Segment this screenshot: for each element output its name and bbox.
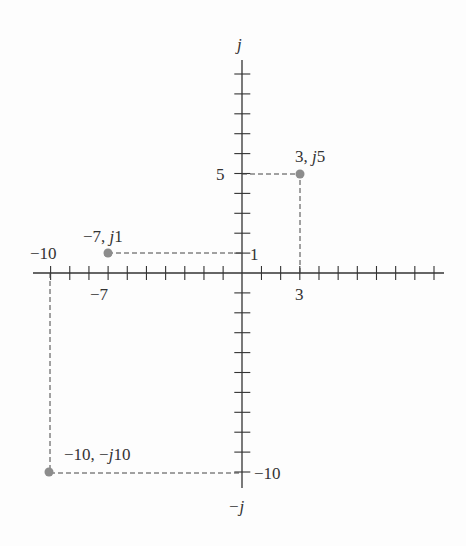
tick-label-x-3: 3	[295, 285, 304, 304]
projection-guides	[50, 174, 300, 473]
point-label-neg7-j1: −7, j1	[83, 227, 123, 246]
tick-label-x-neg10: −10	[30, 244, 57, 263]
negative-imaginary-label: −j	[228, 497, 244, 516]
positive-imaginary-label: j	[235, 35, 242, 54]
point-3-j5	[296, 170, 305, 179]
point-label-neg10-negj10: −10, −j10	[64, 445, 130, 464]
guide-point-neg10-negj10	[50, 273, 242, 473]
point-label-3-j5: 3, j5	[295, 147, 325, 166]
tick-label-y-1: 1	[250, 245, 259, 264]
tick-label-y-neg10: −10	[254, 464, 281, 483]
point-neg10-negj10	[45, 468, 54, 477]
complex-plane-diagram: j −j −10 −7 3 5 1 −10 3, j5 −7, j1 −10, …	[0, 0, 466, 546]
complex-plane-svg: j −j −10 −7 3 5 1 −10 3, j5 −7, j1 −10, …	[0, 0, 466, 546]
tick-label-x-neg7: −7	[90, 285, 109, 304]
point-neg7-j1	[104, 249, 113, 258]
tick-label-y-5: 5	[216, 165, 225, 184]
